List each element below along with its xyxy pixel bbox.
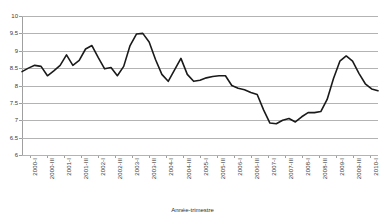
data-series-polyline	[22, 33, 378, 123]
x-axis-tick-label: 2001-I	[66, 158, 72, 176]
x-axis-tick	[336, 156, 337, 158]
y-axis-tick-label: 8.5	[10, 65, 18, 71]
x-axis-tick	[30, 156, 31, 158]
x-axis-tick	[234, 156, 235, 158]
x-axis-tick	[370, 156, 371, 158]
x-axis-tick	[217, 156, 218, 158]
x-axis-tick-label: 2006-III	[254, 158, 260, 179]
y-axis-tick-label: 7.5	[10, 100, 18, 106]
x-axis-tick	[268, 156, 269, 158]
x-axis-tick-label: 2002-I	[100, 158, 106, 176]
y-axis-tick-label: 6	[15, 152, 18, 158]
y-axis-tick-label: 6.5	[10, 135, 18, 141]
x-axis-tick-label: 2004-I	[168, 158, 174, 176]
series-line	[22, 16, 378, 155]
x-axis-tick-label: 2000-III	[49, 158, 55, 179]
y-axis-tick-label: 8	[15, 83, 18, 89]
x-axis-tick-label: 2010-I	[373, 158, 379, 176]
x-axis-tick	[353, 156, 354, 158]
plot-area	[22, 16, 378, 155]
x-axis-tick	[81, 156, 82, 158]
x-axis-tick-label: 2008-I	[305, 158, 311, 176]
x-axis: 2000-I2000-III2001-I2001-III2002-I2002-I…	[22, 156, 378, 204]
y-axis-tick-label: 7	[15, 117, 18, 123]
x-axis-tick-label: 2006-I	[237, 158, 243, 176]
x-axis-tick	[200, 156, 201, 158]
x-axis-tick-label: 2005-I	[203, 158, 209, 176]
x-axis-tick-label: 2009-III	[356, 158, 362, 179]
x-axis-tick	[47, 156, 48, 158]
x-axis-tick	[115, 156, 116, 158]
x-axis-tick	[251, 156, 252, 158]
x-axis-tick-label: 2004-III	[186, 158, 192, 179]
y-axis-tick-label: 9.5	[10, 30, 18, 36]
x-axis-tick	[166, 156, 167, 158]
x-axis-tick-label: 2002-III	[117, 158, 123, 179]
x-axis-tick-label: 2000-I	[32, 158, 38, 176]
x-axis-tick-label: 2003-I	[134, 158, 140, 176]
x-axis-title: Année-trimestre	[0, 206, 385, 214]
x-axis-tick	[149, 156, 150, 158]
x-axis-tick-label: 2008-III	[322, 158, 328, 179]
y-axis: 66.577.588.599.510	[0, 0, 22, 224]
x-axis-tick	[183, 156, 184, 158]
x-axis-tick-label: 2001-III	[83, 158, 89, 179]
x-axis-tick	[132, 156, 133, 158]
x-axis-tick-label: 2005-III	[220, 158, 226, 179]
x-axis-tick-label: 2003-III	[151, 158, 157, 179]
x-axis-tick-label: 2007-I	[271, 158, 277, 176]
x-axis-tick	[64, 156, 65, 158]
y-axis-tick-label: 9	[15, 48, 18, 54]
y-axis-tick-label: 10	[11, 13, 18, 19]
chart-container: 66.577.588.599.510 2000-I2000-III2001-I2…	[0, 0, 385, 224]
x-axis-tick	[98, 156, 99, 158]
x-axis-tick	[319, 156, 320, 158]
x-axis-tick-label: 2009-I	[339, 158, 345, 176]
x-axis-tick	[302, 156, 303, 158]
x-axis-tick-label: 2007-III	[288, 158, 294, 179]
x-axis-tick	[285, 156, 286, 158]
